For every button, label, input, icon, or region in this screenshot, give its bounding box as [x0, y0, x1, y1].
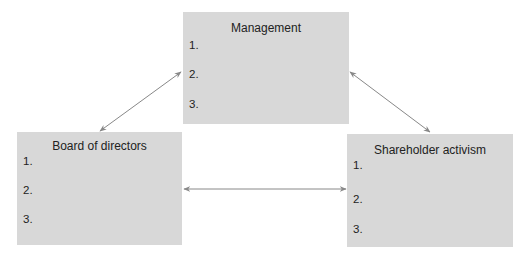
management-item-2: 2. — [189, 68, 199, 80]
board-item-3: 3. — [23, 213, 33, 225]
management-item-1: 1. — [189, 39, 199, 51]
board-item-2: 2. — [23, 184, 33, 196]
board-item-1: 1. — [23, 155, 33, 167]
arrow-management-board — [100, 72, 181, 131]
arrow-management-shareholder — [350, 72, 430, 132]
shareholder-item-2: 2. — [353, 193, 363, 205]
management-title: Management — [183, 21, 349, 35]
board-title: Board of directors — [17, 139, 182, 153]
management-item-3: 3. — [189, 98, 199, 110]
shareholder-box: Shareholder activism 1. 2. 3. — [347, 134, 513, 247]
management-box: Management 1. 2. 3. — [183, 12, 349, 124]
shareholder-item-3: 3. — [353, 223, 363, 235]
shareholder-title: Shareholder activism — [347, 143, 513, 157]
board-box: Board of directors 1. 2. 3. — [17, 132, 182, 245]
shareholder-item-1: 1. — [353, 159, 363, 171]
